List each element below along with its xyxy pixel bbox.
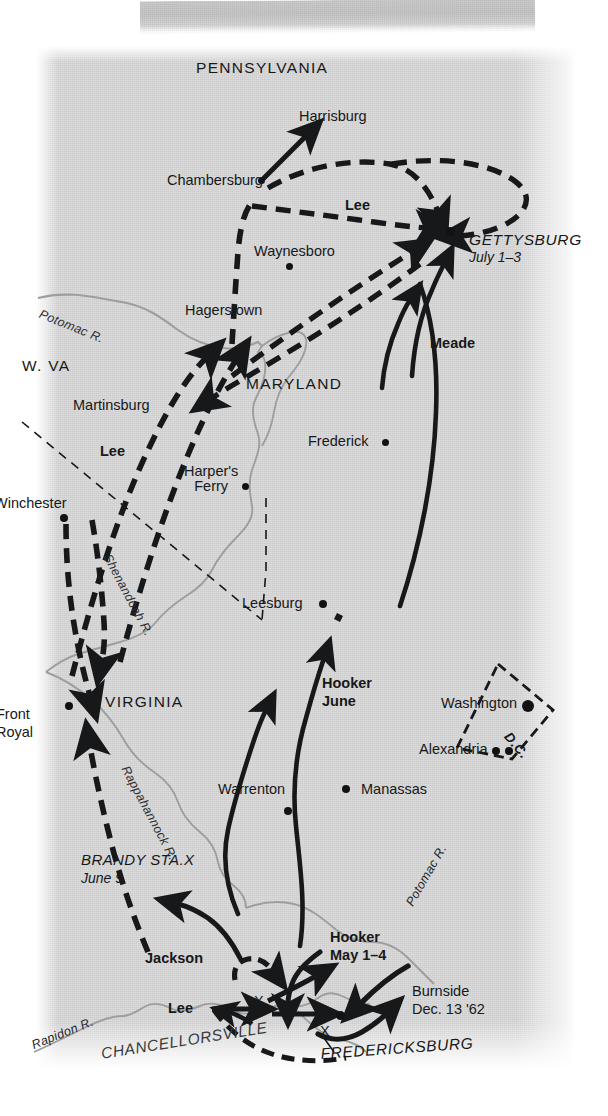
city-label-winchester: Winchester xyxy=(0,496,67,511)
marker-leesburg-column xyxy=(334,613,343,622)
city-label-manassas: Manassas xyxy=(361,782,427,797)
battle-gettysburg-name: GETTYSBURG xyxy=(469,232,582,248)
army-label-hooker-may: Hooker May 1–4 xyxy=(330,930,386,964)
army-label-hooker-june-line2: June xyxy=(322,694,372,709)
arrow-lee-brandy-to-front-royal xyxy=(90,746,148,952)
city-label-front-royal-line1: Front xyxy=(0,707,33,722)
dot-washington xyxy=(522,700,534,712)
state-label-west-virginia: W. VA xyxy=(22,358,70,374)
city-label-harpers-ferry: Harper's Ferry xyxy=(184,464,238,495)
city-label-hagerstown: Hagerstown xyxy=(185,303,262,318)
battle-marker-fredericksburg: X xyxy=(320,1024,330,1039)
city-label-harpers-ferry-line1: Harper's xyxy=(184,464,238,479)
dot-fredericksburg xyxy=(336,1011,345,1020)
arrow-lee-valley-south-outer xyxy=(66,524,90,696)
city-label-front-royal: Front Royal xyxy=(0,707,33,741)
city-label-front-royal-line2: Royal xyxy=(0,725,33,740)
state-label-maryland: MARYLAND xyxy=(246,376,342,392)
arrow-lee-valley-south-inner xyxy=(92,520,104,660)
battle-gettysburg: GETTYSBURG July 1–3 xyxy=(469,232,582,265)
city-label-waynesboro: Waynesboro xyxy=(254,244,335,259)
army-label-hooker-june-line1: Hooker xyxy=(322,676,372,691)
dot-warrenton xyxy=(284,807,292,815)
dot-frederick xyxy=(382,439,389,446)
state-label-pennsylvania: PENNSYLVANIA xyxy=(196,60,328,76)
dot-front-royal xyxy=(65,702,73,710)
army-label-hooker-may-line1: Hooker xyxy=(330,930,386,945)
scan-fragment-strip xyxy=(140,0,535,35)
map-page: PENNSYLVANIA MARYLAND W. VA VIRGINIA Har… xyxy=(0,0,608,1116)
arrow-burnside-to-fredericksburg xyxy=(360,966,408,1004)
city-label-harpers-ferry-line2: Ferry xyxy=(184,479,238,494)
arrow-hooker-june-right-column xyxy=(294,658,324,946)
city-label-leesburg: Leesburg xyxy=(242,596,302,611)
battle-gettysburg-date: July 1–3 xyxy=(469,250,582,265)
dot-leesburg xyxy=(319,600,327,608)
army-label-burnside-line1: Burnside xyxy=(412,984,485,999)
campaign-map: PENNSYLVANIA MARYLAND W. VA VIRGINIA Har… xyxy=(0,46,608,1086)
dot-manassas xyxy=(342,785,350,793)
city-label-alexandria: Alexandria xyxy=(419,742,488,757)
dot-harpers-ferry xyxy=(242,483,249,490)
army-label-jackson: Jackson xyxy=(145,951,203,966)
army-label-hooker-june: Hooker June xyxy=(322,676,372,710)
army-label-hooker-may-line2: May 1–4 xyxy=(330,948,386,963)
city-label-frederick: Frederick xyxy=(308,434,368,449)
army-label-lee-chancellorsville: Lee xyxy=(168,1001,193,1016)
city-label-harrisburg: Harrisburg xyxy=(299,109,367,124)
army-label-lee-gettysburg: Lee xyxy=(345,198,370,213)
dot-waynesboro xyxy=(286,263,293,270)
battle-brandy-station-date: June 9 xyxy=(81,871,194,886)
army-label-lee-valley: Lee xyxy=(100,444,125,459)
army-label-meade: Meade xyxy=(430,336,475,351)
dot-gettysburg xyxy=(446,227,455,236)
army-label-burnside-line2: Dec. 13 '62 xyxy=(412,1002,485,1017)
army-label-burnside: Burnside Dec. 13 '62 xyxy=(412,984,485,1018)
map-vector-layer xyxy=(0,46,608,1086)
state-label-virginia: VIRGINIA xyxy=(105,694,183,710)
battle-marker-chancellorsville: X xyxy=(254,994,264,1009)
arrow-meade-left-column xyxy=(382,300,410,388)
arrow-lee-south-branch-to-gettysburg xyxy=(252,206,426,228)
arrow-jackson-flank-march xyxy=(235,959,272,980)
dot-alexandria-1 xyxy=(492,747,500,755)
city-label-washington: Washington xyxy=(441,696,517,711)
city-label-martinsburg: Martinsburg xyxy=(73,398,150,413)
dot-winchester xyxy=(60,514,68,522)
arrow-lee-hagerstown-to-chambersburg xyxy=(232,202,252,344)
city-label-chambersburg: Chambersburg xyxy=(167,173,263,188)
city-label-warrenton: Warrenton xyxy=(218,782,285,797)
